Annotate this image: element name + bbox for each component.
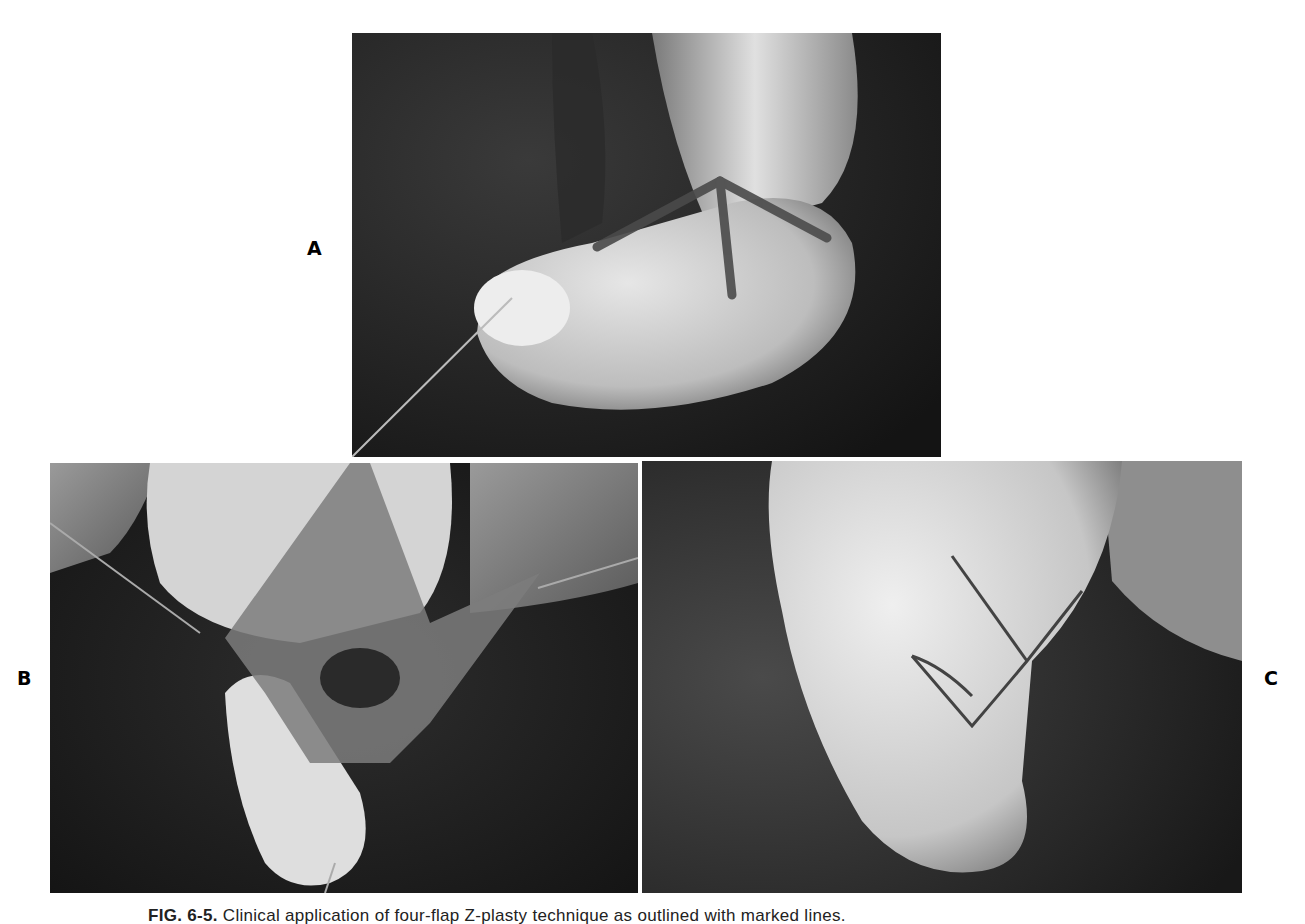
caption-text: Clinical application of four-flap Z-plas… (223, 906, 846, 924)
clinical-photo-c (642, 461, 1242, 893)
photo-panel-c (642, 461, 1242, 893)
panel-label-b: B (17, 669, 31, 688)
clinical-photo-b (50, 463, 638, 893)
panel-label-c: C (1264, 669, 1278, 688)
figure-caption: FIG. 6-5. Clinical application of four-f… (148, 906, 1248, 924)
panel-label-a: A (307, 239, 322, 258)
photo-panel-b (50, 463, 638, 893)
caption-prefix: FIG. 6-5. (148, 906, 218, 924)
photo-panel-a (352, 33, 941, 457)
clinical-photo-a (352, 33, 941, 457)
